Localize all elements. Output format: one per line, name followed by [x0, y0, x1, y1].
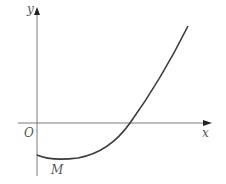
- x-axis-label: x: [202, 127, 209, 139]
- function-curve: [37, 26, 188, 159]
- graph-canvas: [0, 0, 226, 184]
- y-axis-arrow-icon: [34, 7, 40, 15]
- y-axis-label: y: [27, 3, 34, 15]
- point-m-label: M: [51, 164, 63, 176]
- origin-label: O: [24, 127, 34, 139]
- coordinate-diagram: y O x M: [0, 0, 226, 184]
